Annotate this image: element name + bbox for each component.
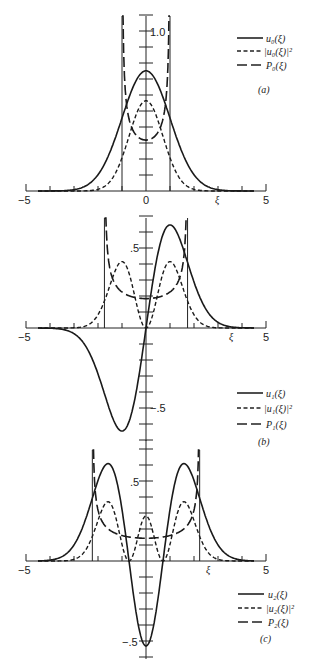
legend-c: u₂(ξ) |u₂(ξ)|² P₂(ξ) (c): [238, 589, 295, 645]
x-tick-label-min: −5: [18, 564, 31, 576]
x-tick-label-min: −5: [18, 331, 31, 343]
panel-b: −5 5 ξ .5 −.5 u₁(ξ) |u₁(ξ)|² P₁(ξ) (b): [18, 216, 293, 448]
panel-c-axes: [26, 440, 266, 659]
x-tick-label-max: 5: [263, 194, 269, 206]
x-tick-label-zero: 0: [143, 194, 149, 206]
xi-axis-label: ξ: [229, 331, 234, 343]
xi-axis-label: ξ: [206, 564, 211, 576]
y-tick-label-pos: .5: [130, 476, 139, 488]
legend-label-u0-squared: |u₀(ξ)|²: [264, 46, 293, 58]
legend-b: u₁(ξ) |u₁(ξ)|² P₁(ξ) (b): [237, 388, 293, 448]
y-tick-label-1: 1.0: [150, 26, 165, 38]
legend-label-p1: P₁(ξ): [265, 419, 287, 431]
panel-label-c: (c): [260, 633, 272, 645]
legend-label-u1: u₁(ξ): [266, 388, 286, 400]
legend-label-u0: u₀(ξ): [266, 33, 286, 45]
xi-axis-label: ξ: [215, 194, 220, 206]
panel-c: −5 5 ξ .5 −.5 u₂(ξ) |u₂(ξ)|² P₂(ξ) (c): [18, 440, 295, 659]
x-tick-label-min: −5: [18, 194, 31, 206]
panel-label-a: (a): [258, 84, 270, 96]
x-tick-label-max: 5: [263, 564, 269, 576]
y-tick-label-neg: −.5: [122, 636, 138, 648]
panel-a-axes: [26, 15, 266, 191]
legend-a: u₀(ξ) |u₀(ξ)|² P₀(ξ) (a): [237, 33, 293, 96]
panel-a: −5 0 5 ξ 1.0 u₀(ξ) |u₀(ξ)|² P₀(ξ) (a): [18, 15, 293, 206]
legend-label-p0: P₀(ξ): [265, 60, 287, 72]
harmonic-oscillator-figure: −5 0 5 ξ 1.0 u₀(ξ) |u₀(ξ)|² P₀(ξ) (a) −5…: [0, 0, 314, 669]
y-tick-label-pos: .5: [130, 242, 139, 254]
panel-label-b: (b): [258, 436, 270, 448]
legend-label-u2-squared: |u₂(ξ)|²: [266, 603, 295, 615]
legend-label-u1-squared: |u₁(ξ)|²: [264, 403, 293, 415]
legend-label-p2: P₂(ξ): [267, 617, 289, 629]
x-tick-label-max: 5: [263, 331, 269, 343]
y-tick-label-neg: −.5: [150, 402, 166, 414]
legend-label-u2: u₂(ξ): [268, 589, 288, 601]
